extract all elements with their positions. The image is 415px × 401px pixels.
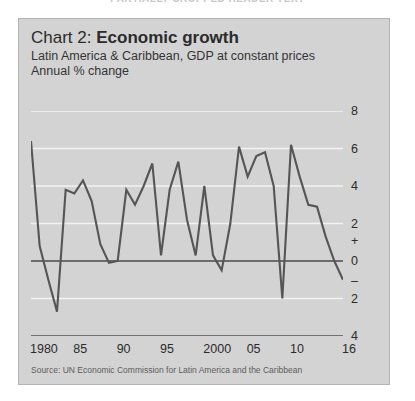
line-chart-svg	[31, 111, 343, 336]
x-axis-tick-label-10: 10	[290, 343, 304, 355]
chart-subtitle-line-1: Latin America & Caribbean, GDP at consta…	[31, 49, 381, 64]
source-note: Source: UN Economic Commission for Latin…	[31, 365, 302, 375]
title-block: Chart 2: Economic growth Latin America &…	[31, 27, 381, 79]
x-axis-tick-label-1980: 1980	[30, 343, 58, 355]
y-axis-tick-label-2: 2	[351, 294, 381, 304]
chart-subtitle-line-2: Annual % change	[31, 64, 381, 79]
x-axis-tick-label-90: 90	[117, 343, 131, 355]
y-axis-tick-label-4: 4	[351, 331, 381, 341]
y-axis-sign-plus: +	[351, 236, 381, 246]
x-axis-tick-label-16: 16	[342, 343, 356, 355]
chart-title-main: Economic growth	[96, 28, 239, 47]
x-axis-tick-label-85: 85	[73, 343, 87, 355]
chart-panel: Chart 2: Economic growth Latin America &…	[18, 18, 390, 385]
y-axis-tick-label-2: 2	[351, 219, 381, 229]
page-title: Chart 2: Economic growth	[31, 27, 381, 49]
x-axis-tick-label-95: 95	[160, 343, 174, 355]
y-axis-sign-minus: –	[351, 276, 381, 286]
x-axis-tick-label-2000: 2000	[203, 343, 231, 355]
chart-title-prefix: Chart 2:	[31, 28, 96, 47]
data-series-line	[31, 141, 343, 312]
cropped-page-header: PARTIALLY CROPPED HEADER TEXT	[0, 0, 415, 14]
y-axis-tick-label-0: 0	[351, 256, 381, 266]
cropped-header-text: PARTIALLY CROPPED HEADER TEXT	[0, 0, 415, 3]
x-axis-tick-label-05: 05	[247, 343, 261, 355]
plot-wrap: 8642024+– 19808590952000051016	[31, 111, 379, 359]
y-axis-tick-label-4: 4	[351, 181, 381, 191]
y-axis-tick-label-8: 8	[351, 106, 381, 116]
y-axis-tick-label-6: 6	[351, 144, 381, 154]
plot-area	[31, 111, 343, 336]
